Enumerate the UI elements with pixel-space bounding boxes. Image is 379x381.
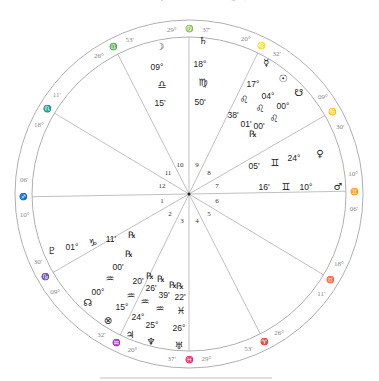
- cusp-minute: 06': [350, 205, 358, 213]
- cusp-degree: 10°: [20, 211, 30, 219]
- cusp-sign-icon: ♒: [112, 338, 121, 347]
- planet-minute: 22': [174, 292, 185, 302]
- retrograde-icon: ℞: [157, 274, 165, 284]
- planet-degree: 18°: [194, 59, 207, 69]
- planet-minute: 00': [112, 262, 123, 272]
- cusp-label-7: 10°♊06': [348, 170, 359, 213]
- house-number-6: 6: [215, 197, 219, 205]
- planet-minute: 39': [158, 290, 169, 300]
- planet-glyph-icon: ☋: [295, 87, 304, 98]
- cusp-degree: 20°: [241, 35, 251, 43]
- cusp-label-5: 26°♈53': [244, 329, 284, 353]
- house-number-2: 2: [168, 210, 172, 218]
- retrograde-icon: ℞: [146, 271, 154, 281]
- cusp-degree: 26°: [274, 329, 284, 337]
- cusp-degree: 26°: [94, 52, 104, 60]
- planet-glyph-icon: ♆: [147, 336, 156, 347]
- cusp-minute: 06': [20, 176, 28, 184]
- planet-glyph-icon: ♅: [175, 340, 184, 351]
- planet-glyph-icon: ♂: [334, 181, 343, 192]
- cusp-label-4: 29°♓37': [168, 355, 212, 364]
- planet-minute: 50': [194, 97, 205, 107]
- house-number-1: 1: [160, 197, 164, 205]
- planet-minute: 01': [240, 119, 251, 129]
- planet-sign-icon: ♊: [271, 157, 280, 168]
- planet-degree: 24°: [132, 312, 145, 322]
- cusp-minute: 30': [34, 258, 42, 266]
- natal-chart-wheel: 10°♐06'09°♑30'20°♒32'29°♓37'26°♈53'18°♉1…: [0, 0, 379, 381]
- planet-glyph-icon: ☽: [156, 41, 165, 52]
- planet-glyph-icon: ♃: [126, 329, 135, 340]
- planet-mars: ♂10°♊16': [258, 181, 342, 192]
- cusp-label-1: 10°♐06': [19, 176, 30, 219]
- house-number-10: 10: [177, 161, 185, 169]
- cusp-minute: 11': [317, 290, 325, 298]
- planet-degree: 00°: [277, 101, 290, 111]
- planet-degree: 10°: [300, 182, 313, 192]
- house-number-4: 4: [195, 217, 199, 225]
- planet-sign-icon: ♓: [177, 305, 186, 316]
- cusp-degree: 20°: [127, 346, 137, 354]
- planet-uranus: ♅26°♓22'℞: [173, 281, 186, 351]
- cusp-label-10: 29°♍37': [167, 24, 211, 34]
- planet-venus: ♀24°♊05': [248, 148, 323, 171]
- planet-sign-icon: ♒: [156, 303, 165, 314]
- cusp-label-8: 09°♋30': [318, 93, 344, 131]
- house-number-12: 12: [159, 182, 167, 190]
- cusp-sign-icon: ♎: [109, 42, 118, 51]
- cusp-sign-icon: ♌: [257, 41, 266, 50]
- planet-sign-icon: ♑: [89, 237, 98, 248]
- planet-pluto: ♇01°♑11'℞: [48, 230, 136, 256]
- cusp-minute: 32': [273, 50, 281, 58]
- retrograde-icon: ℞: [128, 230, 136, 240]
- cusp-minute: 11': [53, 91, 61, 99]
- cusp-degree: 18°: [34, 121, 44, 129]
- planet-sign-icon: ♌: [256, 103, 265, 114]
- cusp-degree: 29°: [167, 26, 177, 34]
- planet-moon: ☽09°♎15': [151, 41, 167, 108]
- planet-degree: 17°: [247, 79, 260, 89]
- cusp-sign-icon: ♑: [41, 272, 50, 281]
- planet-sign-icon: ♒: [106, 273, 115, 284]
- cusp-sign-icon: ♏: [43, 104, 52, 113]
- planet-minute: 00': [253, 121, 264, 131]
- planet-sign-icon: ♌: [270, 113, 279, 124]
- cusp-sign-icon: ♋: [328, 107, 337, 116]
- house-number-11: 11: [165, 169, 172, 177]
- house-number-7: 7: [215, 182, 219, 190]
- planet-degree: 15°: [116, 302, 129, 312]
- planet-glyph-icon: ⊗: [104, 315, 112, 326]
- planet-degree: 00°: [92, 287, 105, 297]
- planet-minute: 16': [258, 182, 269, 192]
- house-number-5: 5: [207, 210, 211, 218]
- cusp-sign-icon: ♓: [185, 355, 194, 364]
- cusp-minute: 53': [126, 36, 134, 44]
- planet-minute: 26': [145, 283, 156, 293]
- planet-minute: 11': [106, 234, 117, 244]
- planet-degree: 09°: [151, 62, 164, 72]
- house-number-8: 8: [207, 169, 211, 177]
- planet-sign-icon: ♊: [282, 181, 291, 192]
- planet-minute: 20': [132, 276, 143, 286]
- planet-minute: 05': [248, 161, 259, 171]
- cusp-degree: 09°: [50, 288, 60, 296]
- planet-degree: 01°: [66, 242, 79, 252]
- planet-sign-icon: ♍: [199, 77, 208, 88]
- planet-sign-icon: ♒: [141, 296, 150, 307]
- house-number-9: 9: [195, 161, 199, 169]
- cusp-label-2: 09°♑30': [34, 258, 61, 296]
- planet-degree: 24°: [288, 153, 301, 163]
- cusp-sign-icon: ♈: [260, 337, 269, 346]
- planet-saturn: ♄18°♍50': [194, 35, 208, 107]
- cusp-sign-icon: ♐: [19, 192, 28, 201]
- planet-glyph-icon: ☊: [84, 297, 93, 308]
- retrograde-icon: ℞: [125, 249, 133, 259]
- cusp-line-1: [32, 194, 189, 197]
- planet-minute: 15': [154, 98, 165, 108]
- cusp-sign-icon: ♊: [350, 187, 359, 196]
- planet-glyph-icon: ♀: [316, 148, 323, 159]
- retrograde-icon: ℞: [176, 281, 184, 291]
- planet-glyph-icon: ☿: [263, 57, 269, 68]
- cusp-minute: 37': [202, 26, 210, 34]
- cusp-degree: 18°: [334, 260, 344, 268]
